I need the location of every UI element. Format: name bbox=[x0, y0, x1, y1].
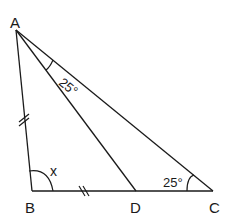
angle-label-dac: 25° bbox=[56, 75, 81, 99]
angle-arc-dac bbox=[46, 60, 53, 70]
vertex-label-b: B bbox=[25, 199, 35, 216]
angle-arc-acb bbox=[187, 175, 194, 191]
angle-label-acb: 25° bbox=[163, 175, 183, 190]
triangle-diagram: A B D C 25° 25° x bbox=[0, 0, 234, 220]
diagram-svg: A B D C 25° 25° x bbox=[0, 0, 234, 220]
segment-ad bbox=[16, 30, 136, 191]
side-ca bbox=[16, 30, 213, 191]
angle-label-abc: x bbox=[50, 163, 57, 179]
side-ab bbox=[16, 30, 32, 191]
vertex-label-c: C bbox=[209, 199, 220, 216]
vertex-label-a: A bbox=[10, 14, 20, 31]
vertex-label-d: D bbox=[130, 199, 141, 216]
